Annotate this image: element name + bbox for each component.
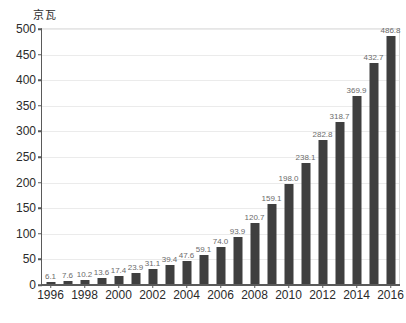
bar-group[interactable]: 238.1: [297, 29, 314, 285]
bar-value-label: 318.7: [329, 112, 349, 121]
y-axis-tick-label: 200: [16, 176, 36, 190]
bar[interactable]: [199, 255, 208, 285]
x-axis-tick-label: 2016: [377, 288, 404, 302]
bar-group[interactable]: 7.6: [59, 29, 76, 285]
bar[interactable]: [250, 223, 259, 285]
x-axis-tick-label: 1996: [37, 288, 64, 302]
bar-group[interactable]: 282.82012: [314, 29, 331, 285]
bar-group[interactable]: 120.72008: [246, 29, 263, 285]
y-axis-tick-label: 50: [23, 252, 36, 266]
x-axis-tick-label: 2000: [105, 288, 132, 302]
bar-series: 6.119967.610.2199813.617.4200023.931.120…: [42, 29, 399, 285]
bar-value-label: 238.1: [295, 153, 315, 162]
bar-group[interactable]: 74.02006: [212, 29, 229, 285]
bar-value-label: 159.1: [261, 194, 281, 203]
bar-group[interactable]: 6.11996: [42, 29, 59, 285]
x-axis-tick-label: 1998: [71, 288, 98, 302]
bar[interactable]: [301, 163, 310, 285]
bar-group[interactable]: 369.92014: [348, 29, 365, 285]
x-axis-line: [41, 284, 400, 286]
bar-value-label: 47.6: [179, 251, 195, 260]
y-axis-tick-label: 400: [16, 73, 36, 87]
y-axis-tick-label: 100: [16, 227, 36, 241]
y-axis-tick-label: 300: [16, 124, 36, 138]
bar-value-label: 17.4: [111, 266, 127, 275]
y-axis-tick-label: 350: [16, 99, 36, 113]
x-axis-tick-label: 2012: [309, 288, 336, 302]
bar-value-label: 369.9: [346, 86, 366, 95]
bar[interactable]: [369, 63, 378, 285]
x-axis-tick-label: 2006: [207, 288, 234, 302]
bar-value-label: 93.9: [230, 227, 246, 236]
bar-value-label: 198.0: [278, 174, 298, 183]
bar-group[interactable]: 432.7: [365, 29, 382, 285]
bar[interactable]: [216, 247, 225, 285]
bar-value-label: 432.7: [363, 53, 383, 62]
bar[interactable]: [352, 96, 361, 285]
x-axis-tick-label: 2008: [241, 288, 268, 302]
bar-group[interactable]: 23.9: [127, 29, 144, 285]
bar-value-label: 23.9: [128, 263, 144, 272]
bar[interactable]: [318, 140, 327, 285]
bar-group[interactable]: 31.12002: [144, 29, 161, 285]
y-axis-tick-label: 150: [16, 201, 36, 215]
x-axis-tick-label: 2014: [343, 288, 370, 302]
y-axis-tick-label: 450: [16, 48, 36, 62]
bar[interactable]: [335, 122, 344, 285]
bar-value-label: 31.1: [145, 259, 161, 268]
bar[interactable]: [148, 269, 157, 285]
bar-value-label: 74.0: [213, 237, 229, 246]
bar-group[interactable]: 59.1: [195, 29, 212, 285]
x-axis-tick-label: 2004: [173, 288, 200, 302]
y-axis-tick-label: 250: [16, 150, 36, 164]
bar[interactable]: [284, 184, 293, 285]
bar-chart: 京瓦 050100150200250300350400450500 6.1199…: [0, 0, 406, 323]
y-axis-unit-label: 京瓦: [33, 6, 57, 22]
bar[interactable]: [182, 261, 191, 285]
bar-group[interactable]: 47.62004: [178, 29, 195, 285]
bar-value-label: 6.1: [45, 272, 56, 281]
x-axis-tick-label: 2002: [139, 288, 166, 302]
bar-value-label: 59.1: [196, 245, 212, 254]
bar-value-label: 282.8: [312, 130, 332, 139]
bar[interactable]: [165, 265, 174, 285]
bar-value-label: 39.4: [162, 255, 178, 264]
bar-group[interactable]: 198.02010: [280, 29, 297, 285]
bar-value-label: 13.6: [94, 268, 110, 277]
bar-group[interactable]: 39.4: [161, 29, 178, 285]
bar[interactable]: [267, 204, 276, 285]
bar-group[interactable]: 93.9: [229, 29, 246, 285]
bar-group[interactable]: 17.42000: [110, 29, 127, 285]
y-axis-tick-label: 0: [29, 278, 36, 292]
bar-group[interactable]: 318.7: [331, 29, 348, 285]
bar-group[interactable]: 10.21998: [76, 29, 93, 285]
bar-group[interactable]: 159.1: [263, 29, 280, 285]
bar-value-label: 120.7: [244, 213, 264, 222]
y-axis-tick-label: 500: [16, 22, 36, 36]
bar-value-label: 7.6: [62, 271, 73, 280]
bar[interactable]: [233, 237, 242, 285]
plot-area: 050100150200250300350400450500 6.119967.…: [41, 28, 400, 285]
bar[interactable]: [386, 36, 395, 285]
bar-value-label: 486.8: [380, 26, 400, 35]
x-axis-tick-label: 2010: [275, 288, 302, 302]
bar-group[interactable]: 486.82016: [382, 29, 399, 285]
bar-value-label: 10.2: [77, 270, 93, 279]
bar-group[interactable]: 13.6: [93, 29, 110, 285]
